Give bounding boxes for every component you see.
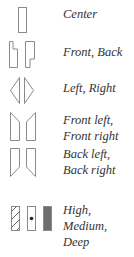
legend-item-front-back: Front, Back [0,38,134,72]
back-left-right-speaker-icon [10,148,38,178]
legend-item-left-right: Left, Right [0,74,134,108]
legend-label-high: High, [63,202,91,218]
legend-label-front-back: Front, Back [63,44,122,60]
deep-filled-icon [44,207,52,231]
high-medium-deep-icon [11,206,55,232]
legend-label-center: Center [63,6,97,22]
center-speaker-icon [18,7,28,34]
legend-item-center: Center [0,0,134,36]
legend-label-deep: Deep [63,234,89,250]
legend-label-back-left: Back left, [63,146,110,162]
left-right-speaker-icon [10,77,36,105]
medium-dot-icon [28,207,36,231]
legend-item-depth: High, Medium, Deep [0,200,134,252]
front-back-speaker-icon [9,41,39,69]
legend-label-left-right: Left, Right [63,80,116,96]
legend-label-front-left: Front left, [63,112,113,128]
legend-item-front-left-right: Front left, Front right [0,110,134,146]
legend-label-front-right: Front right [63,128,118,144]
front-left-right-speaker-icon [10,112,38,142]
legend-label-medium: Medium, [63,218,107,234]
legend-label-back-right: Back right [63,162,115,178]
legend-item-back-left-right: Back left, Back right [0,146,134,182]
high-hatched-icon [9,202,21,238]
